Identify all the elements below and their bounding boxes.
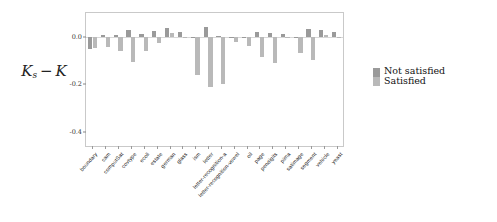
y-axis-label-k: K — [56, 62, 67, 80]
bar-page-satisfied — [260, 37, 264, 58]
y-tick-mark — [83, 131, 86, 132]
bar-boundary-not-satisfied — [88, 37, 92, 50]
x-tick-mark — [118, 146, 119, 149]
x-tick-mark — [208, 146, 209, 149]
bar-oil-not-satisfied — [242, 37, 246, 38]
bar-cam-not-satisfied — [101, 35, 105, 36]
bar-yeast-not-satisfied — [332, 32, 336, 37]
y-axis-label-ks: Ks — [21, 62, 37, 80]
bar-computSat-satisfied — [118, 37, 122, 51]
bar-covtype-not-satisfied — [126, 30, 130, 37]
plot-area: 0.0-0.2-0.4boundarycamcomputSatcovtypeec… — [85, 12, 344, 147]
bar-yeast-satisfied — [337, 37, 341, 38]
legend-swatch-not-satisfied — [373, 68, 380, 77]
x-tick-label-glass: glass — [176, 151, 189, 165]
x-tick-mark — [285, 146, 286, 149]
bar-boundary-satisfied — [93, 37, 97, 48]
y-tick-label: -0.2 — [69, 80, 82, 88]
legend-swatches — [373, 68, 380, 86]
bar-pendigits-satisfied — [273, 37, 277, 64]
legend-label-satisfied: Satisfied — [384, 76, 445, 86]
bar-pendigits-not-satisfied — [268, 33, 272, 36]
bar-letter-recognition-vowel-not-satisfied — [229, 37, 233, 38]
bar-pima-not-satisfied — [281, 34, 285, 37]
x-tick-mark — [157, 146, 158, 149]
x-tick-mark — [234, 146, 235, 149]
x-tick-mark — [311, 146, 312, 149]
x-tick-mark — [144, 146, 145, 149]
x-tick-label-oil: oil — [245, 151, 253, 159]
x-tick-label-boundary: boundary — [79, 151, 99, 172]
x-tick-mark — [247, 146, 248, 149]
y-tick-label: 0.0 — [72, 33, 82, 41]
bar-vehicle-not-satisfied — [319, 30, 323, 37]
bar-letter-not-satisfied — [204, 27, 208, 37]
bar-letter-recognition-a-not-satisfied — [216, 36, 220, 37]
x-tick-mark — [182, 146, 183, 149]
y-tick-label: -0.4 — [69, 128, 82, 136]
x-tick-mark — [170, 146, 171, 149]
bar-ism-not-satisfied — [191, 37, 195, 38]
x-tick-mark — [298, 146, 299, 149]
x-tick-mark — [105, 146, 106, 149]
x-tick-mark — [272, 146, 273, 149]
bar-segment-not-satisfied — [306, 29, 310, 37]
bar-letter-recognition-a-satisfied — [221, 37, 225, 85]
bar-page-not-satisfied — [255, 32, 259, 37]
bar-group — [86, 13, 343, 146]
bar-estate-not-satisfied — [152, 31, 156, 37]
y-tick-mark — [83, 36, 86, 37]
legend-labels: Not satisfiedSatisfied — [384, 66, 445, 86]
y-tick-mark — [83, 84, 86, 85]
x-tick-mark — [92, 146, 93, 149]
bar-glass-not-satisfied — [178, 32, 182, 37]
y-axis-label-minus: − — [37, 62, 56, 80]
bar-letter-satisfied — [208, 37, 212, 87]
bar-segment-satisfied — [311, 37, 315, 60]
x-tick-mark — [221, 146, 222, 149]
legend-swatch-satisfied — [373, 77, 380, 86]
bar-german-satisfied — [170, 33, 174, 37]
bar-satimage-satisfied — [298, 37, 302, 54]
x-tick-mark — [324, 146, 325, 149]
y-axis-label: Ks−K — [8, 62, 80, 80]
bar-computSat-not-satisfied — [114, 35, 118, 37]
x-tick-mark — [195, 146, 196, 149]
bar-ecoli-satisfied — [144, 37, 148, 51]
x-tick-label-yeast: yeast — [330, 151, 343, 165]
bar-pima-satisfied — [285, 37, 289, 38]
x-tick-mark — [259, 146, 260, 149]
x-tick-mark — [337, 146, 338, 149]
bar-satimage-not-satisfied — [294, 37, 298, 38]
bar-ecoli-not-satisfied — [139, 34, 143, 36]
bar-german-not-satisfied — [165, 28, 169, 36]
bar-vehicle-satisfied — [324, 35, 328, 37]
bar-cam-satisfied — [106, 37, 110, 47]
x-tick-mark — [131, 146, 132, 149]
bar-ism-satisfied — [195, 37, 199, 76]
bar-glass-satisfied — [183, 37, 187, 38]
bar-covtype-satisfied — [131, 37, 135, 62]
chart-figure: Ks−K 0.0-0.2-0.4boundarycamcomputSatcovt… — [0, 0, 497, 222]
bar-oil-satisfied — [247, 37, 251, 46]
bar-letter-recognition-vowel-satisfied — [234, 37, 238, 42]
bar-estate-satisfied — [157, 37, 161, 43]
legend: Not satisfiedSatisfied — [373, 66, 445, 86]
